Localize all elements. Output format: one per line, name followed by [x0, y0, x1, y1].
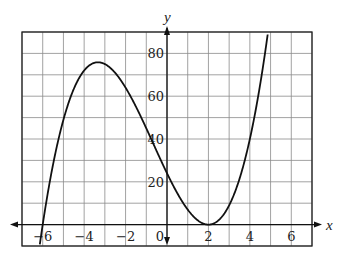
- x-tick-label: 0: [156, 229, 164, 244]
- axes: [10, 26, 322, 245]
- x-axis-arrow-right-icon: [314, 222, 322, 228]
- x-tick-label: 4: [246, 229, 254, 244]
- tick-labels: −6−4−2024620406080: [33, 46, 295, 243]
- x-axis-arrow-left-icon: [10, 222, 18, 228]
- y-tick-label: 80: [147, 46, 164, 61]
- x-tick-label: −2: [116, 229, 135, 244]
- y-axis-label: y: [162, 9, 171, 25]
- y-axis-arrow-up-icon: [164, 26, 170, 35]
- x-tick-label: −4: [75, 229, 94, 244]
- y-axis-arrow-down-icon: [164, 237, 170, 245]
- x-axis-label: x: [325, 217, 333, 233]
- x-tick-label: 6: [287, 229, 295, 244]
- y-tick-label: 60: [147, 89, 164, 104]
- x-tick-label: −6: [33, 229, 52, 244]
- x-tick-label: 2: [204, 229, 212, 244]
- y-tick-label: 20: [147, 175, 164, 190]
- cubic-function-graph: −6−4−2024620406080 x y: [0, 0, 339, 262]
